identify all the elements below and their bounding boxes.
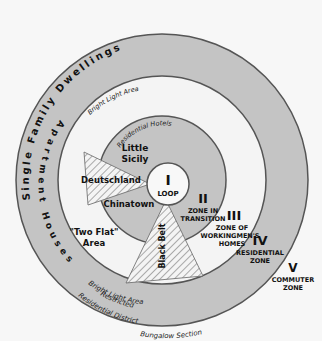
zone-i-numeral: I	[165, 172, 170, 188]
zone-iv-name-2: ZONE	[250, 257, 270, 265]
two-flat-label-2: Area	[83, 238, 106, 248]
bungalow-section-label: Bungalow Section	[140, 328, 203, 340]
little-sicily-label-2: Sicily	[122, 154, 149, 164]
zone-ii-numeral: II	[198, 191, 208, 206]
zone-iii-numeral: III	[227, 208, 242, 223]
zone-ii-name-1: ZONE IN	[188, 207, 218, 215]
zone-iii-name-2: WORKINGMEN'S	[201, 232, 260, 240]
zone-iii-name-1: ZONE OF	[216, 224, 248, 232]
black-belt-label: Black Belt	[158, 223, 167, 268]
zone-iv-name-1: RESIDENTIAL	[236, 249, 284, 257]
concentric-zone-diagram: I LOOP II ZONE IN TRANSITION III ZONE OF…	[0, 0, 322, 341]
chinatown-label: Chinatown	[104, 199, 155, 209]
zone-v-numeral: V	[288, 261, 298, 275]
zone-i-name: LOOP	[157, 190, 178, 198]
zone-iii-name-3: HOMES	[219, 240, 246, 248]
deutschland-label: Deutschland	[81, 175, 141, 185]
zone-iv-numeral: IV	[253, 233, 268, 248]
zone-v-name-2: ZONE	[283, 284, 303, 292]
two-flat-label-1: "Two Flat"	[70, 227, 119, 237]
zone-ii-name-2: TRANSITION	[181, 215, 226, 223]
zone-v-name-1: COMMUTER	[272, 276, 314, 284]
little-sicily-label-1: Little	[122, 143, 149, 153]
